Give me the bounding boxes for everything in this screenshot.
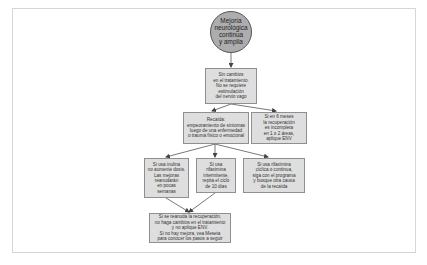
start-node: Mejoría neurológica continua y amplia	[210, 11, 252, 53]
arrow-relapse-to-inulina	[166, 144, 215, 157]
node-six-months: Si en 6 meses la recuperación es incompl…	[251, 112, 307, 144]
node-cyclic-label: Si usa rifaximina cíclica o continua, si…	[253, 162, 296, 189]
node-intermittent: Si usa rifaximina intermitente, repita e…	[196, 158, 236, 193]
node-cyclic: Si usa rifaximina cíclica o continua, si…	[243, 158, 305, 193]
node-no-change: Sin cambios en el tratamiento. No se req…	[205, 68, 257, 104]
node-inulina-label: Si usa inulina no aumente dosis. Las mej…	[148, 162, 186, 194]
node-relapse-label: Recaída: empeoramiento de síntomas luego…	[187, 117, 245, 139]
node-relapse: Recaída: empeoramiento de síntomas luego…	[183, 112, 249, 144]
arrow-no-change-to-six-months	[231, 104, 276, 111]
arrow-no-change-to-relapse	[212, 104, 231, 111]
start-node-label: Mejoría neurológica continua y amplia	[214, 18, 247, 45]
node-inulina: Si usa inulina no aumente dosis. Las mej…	[144, 158, 189, 198]
node-six-months-label: Si en 6 meses la recuperación es incompl…	[263, 114, 294, 141]
node-intermittent-label: Si usa rifaximina intermitente, repita e…	[203, 162, 230, 189]
arrow-relapse-to-cyclic	[215, 144, 268, 157]
arrow-inulina-to-final	[166, 198, 189, 212]
node-no-change-label: Sin cambios en el tratamiento. No se req…	[213, 72, 249, 99]
node-final: Si se reanuda la recuperación, no haga c…	[149, 213, 231, 243]
arrow-intermittent-to-final	[189, 193, 215, 212]
node-final-label: Si se reanuda la recuperación, no haga c…	[155, 214, 225, 241]
